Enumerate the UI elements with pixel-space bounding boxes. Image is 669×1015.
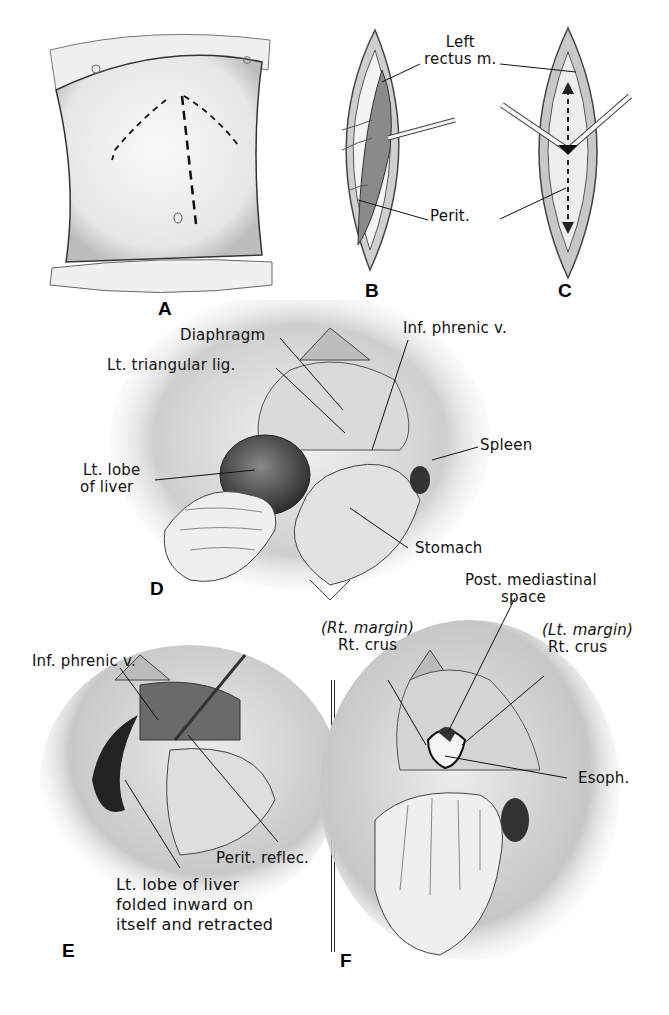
abdomen-d-illustration <box>0 300 669 600</box>
label-diaphragm: Diaphragm <box>180 327 265 344</box>
label-perit: Perit. <box>430 208 470 225</box>
label-rt-crus-rt-margin: (Rt. margin) Rt. crus <box>321 620 414 654</box>
panel-c: C <box>500 0 669 300</box>
label-lt-triangular-lig: Lt. triangular lig. <box>107 357 235 374</box>
panel-f: Post. mediastinal space (Rt. margin) Rt.… <box>320 570 669 1015</box>
panel-letter-f: F <box>340 950 352 972</box>
panel-letter-b: B <box>365 280 379 302</box>
label-spleen: Spleen <box>480 437 532 454</box>
panel-d: Diaphragm Lt. triangular lig. Inf. phren… <box>0 300 669 600</box>
panel-letter-c: C <box>558 280 572 302</box>
label-post-mediastinal-space: Post. mediastinal space <box>465 572 597 606</box>
label-esoph: Esoph. <box>578 770 629 787</box>
torso-illustration <box>0 0 330 320</box>
label-perit-reflec: Perit. reflec. <box>216 850 309 867</box>
label-left-rectus: Left rectus m. <box>424 34 496 68</box>
label-inf-phrenic-v: Inf. phrenic v. <box>403 320 507 337</box>
panel-e: Inf. phrenic v. Perit. reflec. Lt. lobe … <box>0 640 330 1015</box>
label-lt-lobe-folded: Lt. lobe of liver folded inward on itsel… <box>116 875 273 935</box>
panel-letter-e: E <box>62 940 75 962</box>
label-stomach: Stomach <box>415 540 483 557</box>
label-lt-lobe-of-liver: Lt. lobe of liver <box>80 462 140 496</box>
label-rt-crus-lt-margin: (Lt. margin) Rt. crus <box>542 622 633 656</box>
liver-retracted-e-illustration <box>0 640 330 1015</box>
incision-c-illustration <box>500 0 669 300</box>
panel-a: A <box>0 0 330 320</box>
panel-b: Left rectus m. Perit. B <box>320 0 500 300</box>
label-inf-phrenic-v-e: Inf. phrenic v. <box>32 653 136 670</box>
panel-letter-d: D <box>150 578 164 600</box>
